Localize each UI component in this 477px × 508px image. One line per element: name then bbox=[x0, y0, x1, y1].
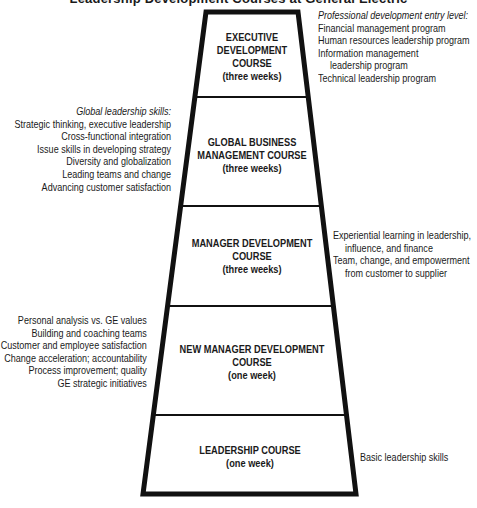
level-duration: (three weeks) bbox=[193, 162, 311, 175]
annotation-item: Diversity and globalization bbox=[14, 155, 171, 168]
annotation-item: influence, and finance bbox=[333, 242, 471, 255]
annotation-item: Cross-functional integration bbox=[14, 130, 171, 143]
annotation-item: Experiential learning in leadership, bbox=[333, 229, 471, 242]
annotation-item: Financial management program bbox=[318, 22, 470, 35]
annotation-item: Customer and employee satisfaction bbox=[1, 339, 147, 352]
annotation-item: Change acceleration; accountability bbox=[1, 352, 147, 365]
annotation-new-manager: Personal analysis vs. GE values Building… bbox=[1, 314, 147, 390]
annotation-global: Global leadership skills: Strategic thin… bbox=[14, 105, 171, 193]
annotation-item: leadership program bbox=[318, 59, 470, 72]
annotation-leadership: Basic leadership skills bbox=[360, 451, 448, 464]
annotation-item: Personal analysis vs. GE values bbox=[1, 314, 147, 327]
annotation-executive: Professional development entry level: Fi… bbox=[318, 9, 470, 85]
level-manager-development: MANAGER DEVELOPMENT COURSE (three weeks) bbox=[182, 237, 323, 276]
level-label: DEVELOPMENT bbox=[206, 44, 298, 57]
annotation-item: Building and coaching teams bbox=[1, 327, 147, 340]
annotation-item: Issue skills in developing strategy bbox=[14, 143, 171, 156]
annotation-header: Global leadership skills: bbox=[14, 105, 171, 118]
level-executive-development: EXECUTIVE DEVELOPMENT COURSE (three week… bbox=[206, 31, 298, 83]
annotation-header: Professional development entry level: bbox=[318, 9, 470, 22]
annotation-item: Team, change, and empowerment bbox=[333, 254, 471, 267]
level-label: MANAGEMENT COURSE bbox=[193, 149, 311, 162]
level-label: MANAGER DEVELOPMENT bbox=[182, 237, 323, 250]
level-duration: (three weeks) bbox=[182, 263, 323, 276]
level-label: NEW MANAGER DEVELOPMENT bbox=[171, 343, 333, 356]
annotation-item: Information management bbox=[318, 47, 470, 60]
level-new-manager-development: NEW MANAGER DEVELOPMENT COURSE (one week… bbox=[171, 343, 333, 382]
level-global-business-management: GLOBAL BUSINESS MANAGEMENT COURSE (three… bbox=[193, 136, 311, 175]
annotation-item: Basic leadership skills bbox=[360, 451, 448, 464]
level-label: COURSE bbox=[206, 57, 298, 70]
level-label: GLOBAL BUSINESS bbox=[193, 136, 311, 149]
level-duration: (three weeks) bbox=[206, 70, 298, 83]
annotation-item: Leading teams and change bbox=[14, 168, 171, 181]
annotation-item: Advancing customer satisfaction bbox=[14, 181, 171, 194]
annotation-manager: Experiential learning in leadership, inf… bbox=[333, 229, 471, 279]
annotation-item: Process improvement; quality bbox=[1, 364, 147, 377]
annotation-item: Technical leadership program bbox=[318, 72, 470, 85]
annotation-item: GE strategic initiatives bbox=[1, 377, 147, 390]
annotation-item: from customer to supplier bbox=[333, 267, 471, 280]
annotation-item: Human resources leadership program bbox=[318, 34, 470, 47]
level-label: COURSE bbox=[171, 356, 333, 369]
level-label: EXECUTIVE bbox=[206, 31, 298, 44]
annotation-item: Strategic thinking, executive leadership bbox=[14, 118, 171, 131]
level-duration: (one week) bbox=[171, 369, 333, 382]
level-label: LEADERSHIP COURSE bbox=[162, 444, 338, 457]
level-leadership-course: LEADERSHIP COURSE (one week) bbox=[162, 444, 338, 470]
level-label: COURSE bbox=[182, 250, 323, 263]
level-duration: (one week) bbox=[162, 457, 338, 470]
